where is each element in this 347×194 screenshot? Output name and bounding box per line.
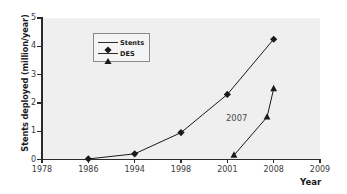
diamond-marker-icon <box>98 38 118 48</box>
y-axis-title: Stents deployed (million/year) <box>20 3 30 163</box>
legend-label-stents: Stents <box>118 39 144 47</box>
chart-figure: 012345 1978198619941998200120082009 2007… <box>0 0 347 194</box>
data-series-layer <box>0 0 347 194</box>
datapoint-stents-1986 <box>85 155 92 162</box>
legend-label-des: DES <box>118 50 135 58</box>
legend-entry-des: DES <box>98 48 145 59</box>
x-axis-title: Year <box>300 177 321 187</box>
annotation-2007: 2007 <box>226 113 247 123</box>
triangle-marker-icon <box>98 49 118 59</box>
datapoint-des-2007 <box>264 113 271 119</box>
datapoint-stents-1994 <box>131 150 138 157</box>
chart-legend: Stents DES <box>93 33 150 62</box>
legend-entry-stents: Stents <box>98 37 145 48</box>
datapoint-des-2008 <box>270 85 277 91</box>
